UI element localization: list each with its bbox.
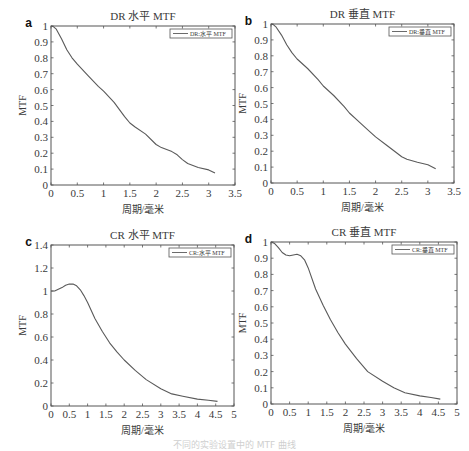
y-tick-label: 0.8 <box>34 308 48 320</box>
y-tick-label: 0.7 <box>254 66 268 78</box>
y-tick-label: 1 <box>263 236 269 248</box>
plot-area <box>51 26 235 185</box>
x-tick-label: 1 <box>101 187 107 199</box>
panel-letter: d <box>245 232 252 246</box>
figure-caption: 不同的实验设置中的 MTF 曲线 <box>0 438 469 451</box>
y-tick-label: 0.3 <box>254 129 268 141</box>
y-tick-label: 0.2 <box>254 145 268 157</box>
x-tick-label: 2 <box>373 185 379 197</box>
y-tick-label: 1.4 <box>34 239 48 251</box>
y-tick-label: 0.8 <box>254 50 268 62</box>
x-tick-label: 2.5 <box>176 187 190 199</box>
y-tick-label: 0.6 <box>34 84 48 96</box>
x-tick-label: 0.5 <box>70 187 84 199</box>
y-tick-label: 0.4 <box>34 354 48 366</box>
x-tick-label: 0.5 <box>283 406 297 418</box>
x-tick-label: 3.5 <box>228 187 242 199</box>
x-tick-label: 3 <box>206 187 212 199</box>
y-tick-label: 0.5 <box>34 100 48 112</box>
y-tick-label: 0.1 <box>254 382 268 394</box>
y-tick-label: 0.7 <box>34 68 48 80</box>
y-tick-label: 0.8 <box>34 52 48 64</box>
chart-panel-b: 00.511.522.533.500.10.20.30.40.50.60.70.… <box>237 7 461 213</box>
x-tick-label: 1 <box>85 408 91 420</box>
x-tick-label: 4 <box>417 406 423 418</box>
legend-label: DR:水平 MTF <box>190 30 227 38</box>
y-tick-label: 1 <box>43 285 49 297</box>
x-tick-label: 0.5 <box>290 185 304 197</box>
y-tick-label: 0.3 <box>254 349 268 361</box>
x-tick-label: 2 <box>343 406 349 418</box>
x-tick-label: 0 <box>268 185 274 197</box>
x-tick-label: 4.5 <box>209 408 223 420</box>
x-tick-label: 1 <box>321 185 327 197</box>
plot-area <box>271 242 457 404</box>
x-tick-label: 4 <box>195 408 201 420</box>
x-tick-label: 2.5 <box>136 408 150 420</box>
legend: CR:水平 MTF <box>169 248 231 257</box>
chart-panel-a: 00.511.522.533.500.10.20.30.40.50.60.70.… <box>17 10 242 215</box>
y-tick-label: 0.2 <box>254 366 268 378</box>
x-tick-label: 4.5 <box>432 406 446 418</box>
y-tick-label: 0.6 <box>254 301 268 313</box>
y-tick-label: 0.7 <box>254 285 268 297</box>
x-tick-label: 5 <box>454 406 460 418</box>
x-tick-label: 2 <box>153 187 159 199</box>
x-tick-label: 5 <box>231 408 237 420</box>
legend-label: DR:垂直 MTF <box>409 28 446 35</box>
legend-label: CR:水平 MTF <box>189 249 225 257</box>
y-tick-label: 0.6 <box>254 82 268 94</box>
panel-letter: b <box>245 14 252 28</box>
x-axis-label: 周期/毫米 <box>343 422 386 434</box>
y-tick-label: 0.5 <box>254 317 268 329</box>
y-axis-label: MTF <box>17 315 28 336</box>
y-tick-label: 0.2 <box>34 377 48 389</box>
x-tick-label: 3 <box>158 408 164 420</box>
plot-area <box>51 245 234 406</box>
legend: DR:水平 MTF <box>170 29 232 38</box>
y-tick-label: 0.8 <box>254 268 268 280</box>
chart-title: CR 水平 MTF <box>110 229 175 241</box>
x-tick-label: 3.5 <box>447 185 461 197</box>
legend: CR:垂直 MTF <box>392 245 454 254</box>
y-tick-label: 0.6 <box>34 331 48 343</box>
y-tick-label: 0.5 <box>254 98 268 110</box>
y-tick-label: 0.9 <box>254 252 268 264</box>
y-axis-label: MTF <box>237 93 248 114</box>
x-tick-label: 1.5 <box>123 187 137 199</box>
x-tick-label: 1.5 <box>343 185 357 197</box>
x-axis-label: 周期/毫米 <box>341 201 384 213</box>
y-tick-label: 0.4 <box>34 115 48 127</box>
y-tick-label: 0 <box>43 400 49 412</box>
y-tick-label: 0 <box>263 177 269 189</box>
x-tick-label: 0 <box>268 406 274 418</box>
y-tick-label: 0.9 <box>254 34 268 46</box>
y-tick-label: 0.3 <box>34 131 48 143</box>
chart-title: CR 垂直 MTF <box>332 225 397 238</box>
plot-area <box>271 24 454 183</box>
chart-panel-d: 00.511.522.533.544.5500.10.20.30.40.50.6… <box>237 225 460 434</box>
x-tick-label: 1 <box>305 406 311 418</box>
x-tick-label: 2 <box>121 408 127 420</box>
x-tick-label: 3.5 <box>394 406 408 418</box>
chart-title: DR 水平 MTF <box>110 10 175 22</box>
x-tick-label: 1.5 <box>99 408 113 420</box>
x-tick-label: 0 <box>48 187 54 199</box>
y-tick-label: 0.4 <box>254 113 268 125</box>
y-tick-label: 1.2 <box>34 262 48 274</box>
y-tick-label: 1 <box>263 18 269 30</box>
x-tick-label: 1.5 <box>320 406 334 418</box>
y-tick-label: 0 <box>43 179 49 191</box>
y-tick-label: 0.9 <box>34 36 48 48</box>
x-tick-label: 3.5 <box>172 408 186 420</box>
x-tick-label: 2.5 <box>357 406 371 418</box>
legend: DR:垂直 MTF <box>389 27 451 36</box>
y-tick-label: 1 <box>43 20 49 32</box>
x-tick-label: 0 <box>48 408 54 420</box>
chart-title: DR 垂直 MTF <box>330 7 395 20</box>
chart-panel-c: 00.511.522.533.544.5500.20.40.60.811.21.… <box>17 229 237 436</box>
y-tick-label: 0.2 <box>34 147 48 159</box>
y-axis-label: MTF <box>17 95 28 116</box>
x-tick-label: 3 <box>425 185 431 197</box>
x-axis-label: 周期/毫米 <box>121 424 164 436</box>
